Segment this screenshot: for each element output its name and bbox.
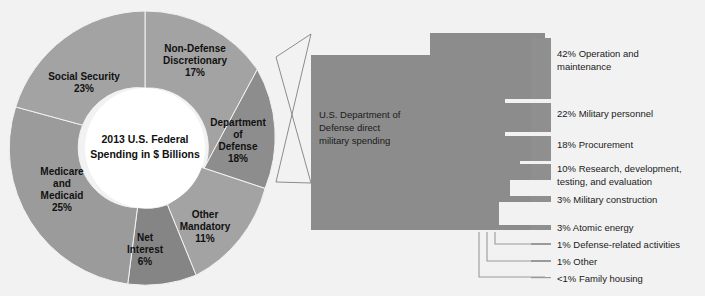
breakdown-label-line: 1% Defense-related activities bbox=[557, 239, 680, 250]
label-line: of bbox=[233, 129, 243, 140]
center-title-line-1: 2013 U.S. Federal bbox=[102, 133, 189, 145]
breakdown-label-line: 18% Procurement bbox=[557, 139, 633, 150]
breakdown-label-line: <1% Family housing bbox=[557, 273, 643, 284]
breakdown-band bbox=[531, 225, 551, 230]
federal-spending-infographic: Non-Defense Discretionary 17% Department… bbox=[0, 0, 705, 296]
label-line: Mandatory bbox=[180, 221, 231, 232]
breakdown-label-line: 22% Military personnel bbox=[557, 108, 653, 119]
label-line: Social Security bbox=[48, 71, 120, 82]
breakdown-label-line: 3% Atomic energy bbox=[557, 222, 634, 233]
label-line: Net bbox=[137, 232, 154, 243]
breakdown-label-line: 1% Other bbox=[557, 256, 597, 267]
breakdown-band bbox=[531, 196, 551, 202]
breakdown-band bbox=[531, 103, 551, 132]
center-title-line-2: Spending in $ Billions bbox=[90, 148, 200, 160]
label-value: 18% bbox=[228, 153, 248, 164]
breakdown-label-line: 3% Military construction bbox=[557, 194, 657, 205]
label-line: Medicare bbox=[40, 166, 84, 177]
breakdown-band bbox=[531, 38, 551, 99]
breakdown-label-line: 42% Operation and bbox=[557, 48, 639, 59]
label-line: Medicaid bbox=[41, 190, 84, 201]
label-line: Department bbox=[210, 117, 266, 128]
breakdown-band bbox=[531, 136, 551, 161]
callout-title-line-1: U.S. Department of bbox=[319, 109, 401, 120]
callout-title-line-2: Defense direct bbox=[319, 122, 381, 133]
breakdown-label-line: testing, and evaluation bbox=[557, 176, 652, 187]
label-line: Other bbox=[192, 209, 219, 220]
callout-title-line-3: military spending bbox=[319, 135, 390, 146]
label-line: Discretionary bbox=[163, 55, 227, 66]
label-value: 25% bbox=[52, 202, 72, 213]
label-value: 11% bbox=[195, 233, 215, 244]
label-value: 17% bbox=[185, 67, 205, 78]
label-line: and bbox=[53, 178, 71, 189]
label-line: Interest bbox=[127, 244, 164, 255]
breakdown-label-line: 10% Research, development, bbox=[557, 163, 682, 174]
breakdown-band bbox=[531, 243, 551, 245]
breakdown-label-line: maintenance bbox=[557, 61, 611, 72]
label-value: 6% bbox=[138, 256, 153, 267]
breakdown-band bbox=[531, 277, 551, 278]
label-line: Defense bbox=[219, 141, 258, 152]
breakdown-band bbox=[531, 260, 551, 262]
label-value: 23% bbox=[74, 83, 94, 94]
label-line: Non-Defense bbox=[164, 43, 226, 54]
breakdown-band bbox=[531, 164, 551, 180]
